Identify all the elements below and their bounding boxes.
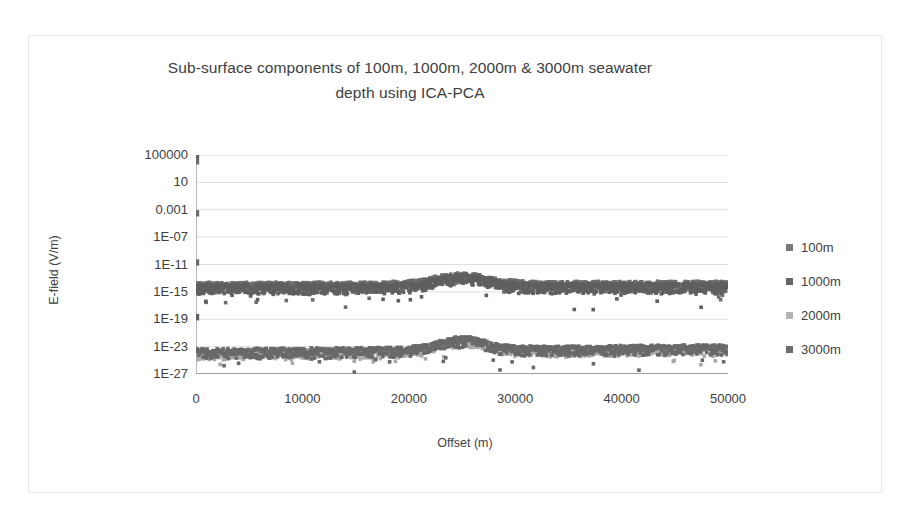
chart-legend: 100m1000m2000m3000m — [786, 230, 886, 366]
data-point — [505, 351, 509, 355]
data-point — [485, 340, 489, 344]
x-tick-label: 10000 — [257, 391, 347, 406]
data-point — [458, 346, 462, 350]
data-point — [616, 290, 620, 294]
origin-data-point — [196, 314, 199, 320]
legend-item-2000m[interactable]: 2000m — [786, 298, 886, 332]
data-point — [424, 288, 428, 292]
data-point — [699, 305, 703, 309]
data-point — [705, 351, 709, 355]
legend-swatch-icon — [786, 346, 793, 353]
data-point — [578, 354, 582, 358]
data-point — [222, 364, 226, 368]
data-point — [237, 361, 241, 365]
data-point — [234, 356, 238, 360]
data-point — [316, 291, 320, 295]
data-point — [498, 368, 502, 372]
plot-area — [196, 155, 728, 374]
data-point — [726, 283, 728, 287]
x-axis-title: Offset (m) — [195, 436, 735, 450]
y-tick-label: 1E-07 — [106, 230, 188, 243]
x-tick-label: 30000 — [470, 391, 560, 406]
data-point — [402, 291, 406, 295]
origin-data-point — [196, 210, 199, 216]
data-point — [714, 359, 718, 363]
legend-item-3000m[interactable]: 3000m — [786, 332, 886, 366]
legend-item-100m[interactable]: 100m — [786, 230, 886, 264]
data-point — [374, 358, 378, 362]
data-point — [637, 368, 641, 372]
data-point — [218, 363, 222, 367]
data-point — [722, 360, 726, 364]
data-point — [605, 354, 609, 358]
data-point — [409, 298, 413, 302]
data-point — [291, 361, 295, 365]
data-point — [510, 360, 514, 364]
data-point — [197, 292, 201, 296]
data-point — [699, 363, 703, 367]
data-point — [701, 358, 705, 362]
data-point — [352, 370, 356, 374]
data-point — [499, 352, 503, 356]
data-point — [539, 282, 543, 286]
data-point — [647, 353, 651, 357]
x-tick-label: 0 — [151, 391, 241, 406]
data-point — [520, 354, 524, 358]
data-point — [545, 354, 549, 358]
data-point — [367, 296, 371, 300]
x-tick-label: 50000 — [683, 391, 773, 406]
data-point — [572, 308, 576, 312]
y-tick-label: 1E-15 — [106, 285, 188, 298]
data-point — [408, 291, 412, 295]
data-point — [370, 355, 374, 359]
series-1000m — [196, 155, 728, 320]
data-point — [257, 292, 261, 296]
data-point — [491, 358, 495, 362]
data-point — [228, 283, 232, 287]
data-point — [264, 347, 268, 351]
data-point — [336, 354, 340, 358]
chart-title: Sub-surface components of 100m, 1000m, 2… — [110, 55, 710, 105]
chart-container: Sub-surface components of 100m, 1000m, 2… — [0, 0, 912, 523]
origin-data-point — [196, 259, 199, 265]
data-point — [407, 281, 411, 285]
data-point — [720, 353, 724, 357]
data-point — [221, 347, 225, 351]
data-point — [323, 357, 327, 361]
data-point — [655, 299, 659, 303]
y-tick-label: 10 — [106, 175, 188, 188]
data-point — [615, 297, 619, 301]
data-point — [660, 283, 664, 287]
data-point — [672, 359, 676, 363]
data-point — [329, 356, 333, 360]
data-point — [496, 279, 500, 283]
data-point — [227, 357, 231, 361]
data-point — [216, 355, 220, 359]
data-point — [716, 353, 720, 357]
legend-swatch-icon — [786, 244, 793, 251]
data-point — [725, 345, 728, 349]
y-tick-label: 1E-19 — [106, 312, 188, 325]
data-point — [352, 359, 356, 363]
data-point — [353, 356, 357, 360]
data-point — [588, 352, 592, 356]
x-tick-label: 40000 — [577, 391, 667, 406]
data-point — [358, 357, 362, 361]
data-point — [677, 284, 681, 288]
data-point — [311, 298, 315, 302]
data-point — [224, 301, 228, 305]
data-point — [528, 353, 532, 357]
data-point — [313, 356, 317, 360]
data-point — [429, 349, 433, 353]
legend-item-1000m[interactable]: 1000m — [786, 264, 886, 298]
data-point — [385, 351, 389, 355]
data-point — [581, 291, 585, 295]
data-point — [388, 360, 392, 364]
data-point — [522, 287, 526, 291]
data-point — [665, 352, 669, 356]
data-point — [424, 357, 428, 361]
origin-data-point — [196, 155, 199, 158]
data-point — [375, 290, 379, 294]
data-point — [318, 360, 322, 364]
x-tick-label: 20000 — [364, 391, 454, 406]
